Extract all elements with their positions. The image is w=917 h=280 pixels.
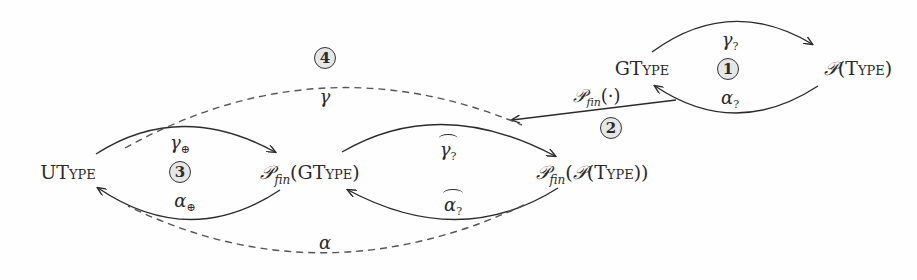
label-gamma: γ bbox=[320, 88, 331, 106]
fin-subscript: fin bbox=[586, 96, 600, 109]
subscript: ⊕ bbox=[181, 143, 190, 156]
hat-accent: γ? bbox=[440, 141, 457, 159]
subscript: ? bbox=[456, 205, 462, 218]
fin-subscript: fin bbox=[550, 173, 566, 187]
circled-number: 1 bbox=[717, 58, 739, 80]
marker-3: 3 bbox=[169, 161, 191, 183]
gamma-symbol: γ bbox=[440, 139, 451, 160]
gtype-text: GType bbox=[615, 57, 670, 79]
alpha-symbol: α bbox=[444, 194, 456, 215]
alpha-symbol: α bbox=[319, 232, 331, 253]
hat-accent: α? bbox=[444, 196, 462, 214]
node-utype: UType bbox=[40, 163, 96, 182]
gamma-symbol: γ bbox=[320, 86, 331, 107]
subscript: ? bbox=[732, 40, 738, 53]
label-alpha: α bbox=[319, 234, 331, 252]
gtype-text: GType bbox=[298, 161, 353, 183]
label-gamma-q: γ? bbox=[722, 31, 739, 49]
node-pfin-powerset-type: 𝒫fin(𝒫(Type)) bbox=[536, 163, 649, 182]
edges-layer bbox=[0, 0, 917, 280]
circled-number: 4 bbox=[314, 47, 336, 69]
gamma-symbol: γ bbox=[722, 29, 733, 50]
node-powerset-type: 𝒫(Type) bbox=[824, 59, 892, 78]
marker-1: 1 bbox=[717, 58, 739, 80]
circled-number: 2 bbox=[600, 117, 622, 139]
powerset-symbol: 𝒫 bbox=[260, 161, 274, 183]
marker-4: 4 bbox=[314, 47, 336, 69]
circled-number: 3 bbox=[169, 161, 191, 183]
fin-subscript: fin bbox=[274, 173, 290, 187]
powerset-symbol: 𝒫 bbox=[573, 85, 586, 106]
alpha-symbol: α bbox=[174, 190, 186, 211]
subscript: ? bbox=[733, 98, 739, 111]
marker-2: 2 bbox=[600, 117, 622, 139]
label-alpha-hat-q: α? bbox=[444, 196, 462, 214]
gamma-symbol: γ bbox=[170, 132, 181, 153]
node-pfin-gtype: 𝒫fin(GType) bbox=[260, 163, 359, 182]
powerset-symbol: 𝒫 bbox=[536, 161, 550, 183]
galois-connection-diagram: GType 𝒫(Type) UType 𝒫fin(GType) 𝒫fin(𝒫(T… bbox=[0, 0, 917, 280]
node-gtype: GType bbox=[615, 59, 670, 78]
argument: (·) bbox=[601, 85, 621, 106]
label-pfin-map: 𝒫fin(·) bbox=[573, 87, 620, 105]
label-gamma-oplus: γ⊕ bbox=[170, 134, 190, 152]
type-text: Type bbox=[594, 161, 634, 183]
subscript: ⊕ bbox=[186, 201, 195, 214]
subscript: ? bbox=[450, 150, 456, 163]
label-gamma-hat-q: γ? bbox=[440, 141, 457, 159]
powerset-symbol: 𝒫 bbox=[573, 161, 587, 183]
powerset-symbol: 𝒫 bbox=[824, 57, 838, 79]
type-text: Type bbox=[845, 57, 885, 79]
utype-text: UType bbox=[40, 161, 96, 183]
label-alpha-oplus: α⊕ bbox=[174, 192, 195, 210]
label-alpha-q: α? bbox=[721, 89, 739, 107]
alpha-symbol: α bbox=[721, 87, 733, 108]
